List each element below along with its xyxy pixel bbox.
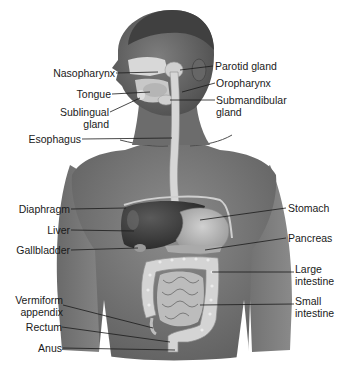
digestive-system-diagram: Nasopharynx Tongue Sublingual gland Esop…	[0, 0, 349, 366]
label-sublingual-line2: gland	[60, 118, 109, 130]
label-small-line1: Small	[295, 295, 334, 307]
label-stomach: Stomach	[288, 202, 329, 214]
label-submandibular-line1: Submandibular	[216, 94, 287, 106]
label-sublingual-line1: Sublingual	[60, 106, 109, 118]
label-submandibular-line2: gland	[216, 106, 287, 118]
label-tongue: Tongue	[77, 88, 111, 100]
label-diaphragm: Diaphragm	[19, 203, 70, 215]
tongue-shape	[143, 83, 167, 97]
label-rectum: Rectum	[26, 321, 62, 333]
label-vermiform-appendix: Vermiform appendix	[15, 294, 63, 318]
label-large-intestine: Large intestine	[295, 263, 334, 287]
label-parotid-gland: Parotid gland	[215, 60, 277, 72]
label-gallbladder: Gallbladder	[16, 244, 70, 256]
label-nasopharynx: Nasopharynx	[53, 67, 115, 79]
label-pancreas: Pancreas	[288, 232, 332, 244]
label-vermiform-line1: Vermiform	[15, 294, 63, 306]
label-liver: Liver	[47, 224, 70, 236]
label-sublingual-gland: Sublingual gland	[60, 106, 109, 130]
label-submandibular-gland: Submandibular gland	[216, 94, 287, 118]
label-small-intestine: Small intestine	[295, 295, 334, 319]
label-esophagus: Esophagus	[28, 133, 81, 145]
label-large-line1: Large	[295, 263, 334, 275]
label-large-line2: intestine	[295, 275, 334, 287]
label-oropharynx: Oropharynx	[216, 77, 271, 89]
small-intestine-shape	[157, 272, 204, 327]
label-anus: Anus	[38, 342, 62, 354]
label-small-line2: intestine	[295, 307, 334, 319]
nasal-cavity	[128, 57, 168, 76]
label-vermiform-line2: appendix	[15, 306, 63, 318]
